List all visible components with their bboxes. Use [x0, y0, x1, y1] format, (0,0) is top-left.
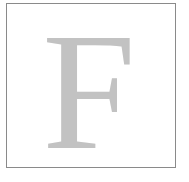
letter-glyph: F — [4, 8, 174, 173]
letter-card: F — [6, 3, 176, 168]
